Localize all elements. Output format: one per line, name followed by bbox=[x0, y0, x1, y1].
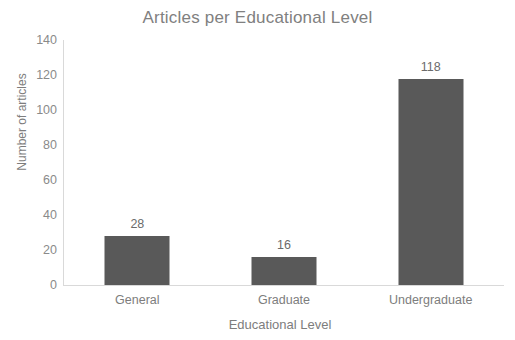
x-axis-title: Educational Level bbox=[60, 317, 500, 332]
bar-value-label: 28 bbox=[130, 217, 144, 231]
x-tick-label: Graduate bbox=[258, 293, 310, 307]
y-tick-label: 120 bbox=[36, 68, 57, 82]
bar-group: 16 Graduate bbox=[211, 40, 358, 285]
y-tick-label: 60 bbox=[43, 173, 57, 187]
x-tick-label: Undergraduate bbox=[389, 293, 472, 307]
bar-value-label: 16 bbox=[277, 238, 291, 252]
x-tick-label: General bbox=[115, 293, 159, 307]
bar[interactable] bbox=[251, 257, 316, 285]
bar-group: 118 Undergraduate bbox=[357, 40, 504, 285]
y-tick-label: 40 bbox=[43, 208, 57, 222]
y-tick-label: 100 bbox=[36, 103, 57, 117]
y-tick-label: 80 bbox=[43, 138, 57, 152]
chart-title: Articles per Educational Level bbox=[0, 8, 515, 28]
plot-area: 140 120 100 80 60 40 20 0 28 General 16 … bbox=[63, 40, 504, 286]
bar-chart: Articles per Educational Level Number of… bbox=[0, 0, 515, 340]
y-tick-label: 0 bbox=[50, 278, 57, 292]
bar-group: 28 General bbox=[64, 40, 211, 285]
y-axis-title: Number of articles bbox=[15, 52, 29, 192]
bar[interactable] bbox=[105, 236, 170, 285]
y-tick-label: 20 bbox=[43, 243, 57, 257]
bar[interactable] bbox=[398, 79, 463, 286]
bar-value-label: 118 bbox=[421, 60, 441, 74]
y-tick-label: 140 bbox=[36, 33, 57, 47]
